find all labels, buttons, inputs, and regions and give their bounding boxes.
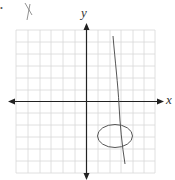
y-axis-up-arrow-icon: [84, 23, 90, 30]
y-axis-down-arrow-icon: [84, 173, 90, 180]
x-axis-right-arrow-icon: [157, 99, 164, 105]
sketched-ellipse: [98, 125, 133, 148]
sketch: [98, 36, 133, 164]
x-axis-label: x: [166, 92, 172, 108]
y-axis-label: y: [81, 5, 87, 21]
x-axis-left-arrow-icon: [8, 99, 15, 105]
sketched-line: [113, 36, 125, 164]
stray-dot: •: [0, 4, 3, 13]
handwritten-x-mark: [25, 3, 32, 20]
coordinate-plane: [0, 0, 175, 180]
axes: [10, 26, 162, 177]
